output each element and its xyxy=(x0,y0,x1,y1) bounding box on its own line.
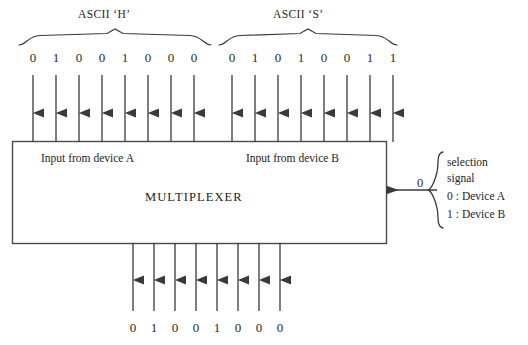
selection-legend-device-a: Device A xyxy=(462,190,505,202)
input-bit-b-4: 0 xyxy=(317,50,331,66)
input-bit-a-2: 0 xyxy=(72,50,86,66)
diagram-text-layer: ASCII ‘H’ ASCII ‘S’ 0 1 0 0 1 0 0 0 0 1 … xyxy=(0,0,528,345)
input-bit-b-3: 1 xyxy=(294,50,308,66)
output-bit-5: 0 xyxy=(231,320,245,336)
diagram-canvas: ASCII ‘H’ ASCII ‘S’ 0 1 0 0 1 0 0 0 0 1 … xyxy=(0,0,528,345)
input-bit-b-6: 1 xyxy=(363,50,377,66)
input-bit-a-7: 0 xyxy=(187,50,201,66)
output-bit-3: 0 xyxy=(189,320,203,336)
output-bit-2: 0 xyxy=(168,320,182,336)
selection-legend-line-3: 1:Device B xyxy=(447,208,505,220)
multiplexer-title: MULTIPLEXER xyxy=(145,190,243,205)
label-input-device-b: Input from device B xyxy=(246,152,339,164)
input-bit-b-1: 1 xyxy=(248,50,262,66)
input-bit-a-3: 0 xyxy=(95,50,109,66)
input-bit-b-0: 0 xyxy=(225,50,239,66)
input-bit-a-0: 0 xyxy=(26,50,40,66)
selection-legend-device-b: Device B xyxy=(462,208,505,220)
input-bit-b-7: 1 xyxy=(386,50,400,66)
input-bit-a-4: 1 xyxy=(118,50,132,66)
output-bit-0: 0 xyxy=(126,320,140,336)
input-bit-a-5: 0 xyxy=(141,50,155,66)
input-bit-a-1: 1 xyxy=(49,50,63,66)
selection-legend-key-1: 1 xyxy=(447,208,453,220)
selection-legend-colon-1: : xyxy=(453,208,462,220)
caption-ascii-h: ASCII ‘H’ xyxy=(78,8,130,20)
selection-legend-line-2: 0:Device A xyxy=(447,190,505,202)
output-bit-4: 1 xyxy=(210,320,224,336)
selection-legend-key-0: 0 xyxy=(447,190,453,202)
input-bit-b-2: 0 xyxy=(271,50,285,66)
input-bit-a-6: 0 xyxy=(164,50,178,66)
selection-legend-colon-0: : xyxy=(453,190,462,202)
label-input-device-a: Input from device A xyxy=(41,152,134,164)
output-bit-7: 0 xyxy=(273,320,287,336)
output-bit-1: 1 xyxy=(147,320,161,336)
input-bit-b-5: 0 xyxy=(340,50,354,66)
selection-signal-value: 0 xyxy=(417,176,423,191)
selection-legend-line-1: signal xyxy=(447,172,474,184)
caption-ascii-s: ASCII ‘S’ xyxy=(273,8,324,20)
selection-legend-line-0: selection xyxy=(447,156,488,168)
output-bit-6: 0 xyxy=(252,320,266,336)
